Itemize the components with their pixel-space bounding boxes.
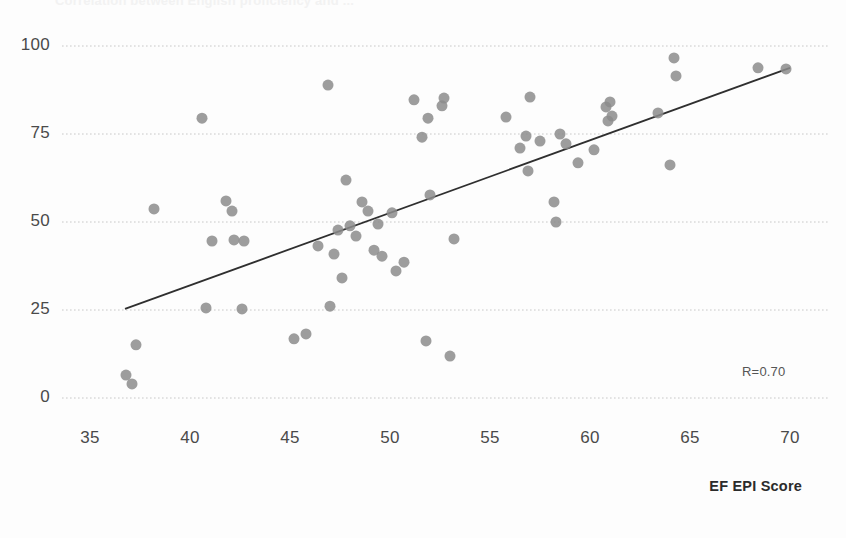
data-point bbox=[289, 333, 300, 344]
data-point bbox=[439, 93, 450, 104]
data-point bbox=[561, 138, 572, 149]
data-point bbox=[363, 206, 374, 217]
x-tick-label-70: 70 bbox=[770, 428, 810, 448]
data-point bbox=[131, 339, 142, 350]
data-point bbox=[207, 236, 218, 247]
data-point bbox=[669, 52, 680, 63]
data-point bbox=[399, 257, 410, 268]
data-point bbox=[445, 351, 456, 362]
x-tick-label-50: 50 bbox=[370, 428, 410, 448]
y-tick-label-100: 100 bbox=[6, 35, 50, 55]
data-point bbox=[781, 63, 792, 74]
data-point bbox=[549, 196, 560, 207]
data-point bbox=[341, 175, 352, 186]
data-point bbox=[323, 80, 334, 91]
data-point bbox=[301, 328, 312, 339]
x-tick-label-45: 45 bbox=[270, 428, 310, 448]
data-point bbox=[357, 196, 368, 207]
data-point bbox=[329, 249, 340, 260]
data-point bbox=[525, 92, 536, 103]
data-point bbox=[333, 225, 344, 236]
data-point bbox=[201, 302, 212, 313]
data-point bbox=[409, 94, 420, 105]
plot-canvas bbox=[0, 0, 846, 538]
x-tick-label-35: 35 bbox=[70, 428, 110, 448]
data-point bbox=[653, 107, 664, 118]
data-point bbox=[671, 70, 682, 81]
y-tick-label-50: 50 bbox=[6, 211, 50, 231]
data-point bbox=[421, 335, 432, 346]
data-point bbox=[753, 62, 764, 73]
data-point bbox=[239, 236, 250, 247]
data-point bbox=[337, 272, 348, 283]
data-point bbox=[417, 132, 428, 143]
data-point bbox=[391, 265, 402, 276]
regression-trendline bbox=[125, 68, 790, 309]
y-tick-label-75: 75 bbox=[6, 123, 50, 143]
data-point bbox=[589, 144, 600, 155]
data-point bbox=[351, 231, 362, 242]
y-tick-label-0: 0 bbox=[6, 387, 50, 407]
correlation-annotation: R=0.70 bbox=[742, 364, 785, 379]
data-point bbox=[237, 303, 248, 314]
data-point bbox=[149, 203, 160, 214]
data-point bbox=[345, 220, 356, 231]
x-tick-label-55: 55 bbox=[470, 428, 510, 448]
data-point bbox=[423, 113, 434, 124]
data-point bbox=[523, 165, 534, 176]
scatter-plot-figure: Correlation between English proficiency … bbox=[0, 0, 846, 538]
data-point bbox=[227, 206, 238, 217]
data-point bbox=[449, 233, 460, 244]
data-point bbox=[197, 113, 208, 124]
data-point bbox=[387, 207, 398, 218]
data-point bbox=[665, 159, 676, 170]
data-point bbox=[605, 96, 616, 107]
x-axis-title: EF EPI Score bbox=[709, 478, 802, 494]
data-point bbox=[573, 157, 584, 168]
trendline-group bbox=[125, 68, 790, 309]
data-point bbox=[607, 111, 618, 122]
x-tick-label-40: 40 bbox=[170, 428, 210, 448]
data-point bbox=[229, 234, 240, 245]
data-point bbox=[425, 189, 436, 200]
y-tick-label-25: 25 bbox=[6, 299, 50, 319]
data-point bbox=[555, 129, 566, 140]
data-point bbox=[313, 240, 324, 251]
data-point bbox=[373, 219, 384, 230]
x-tick-label-60: 60 bbox=[570, 428, 610, 448]
data-point bbox=[521, 131, 532, 142]
data-point bbox=[501, 112, 512, 123]
data-point bbox=[535, 136, 546, 147]
data-point bbox=[551, 217, 562, 228]
data-point bbox=[221, 195, 232, 206]
data-point bbox=[127, 378, 138, 389]
data-point bbox=[325, 301, 336, 312]
x-tick-label-65: 65 bbox=[670, 428, 710, 448]
data-point bbox=[515, 143, 526, 154]
data-point bbox=[377, 251, 388, 262]
